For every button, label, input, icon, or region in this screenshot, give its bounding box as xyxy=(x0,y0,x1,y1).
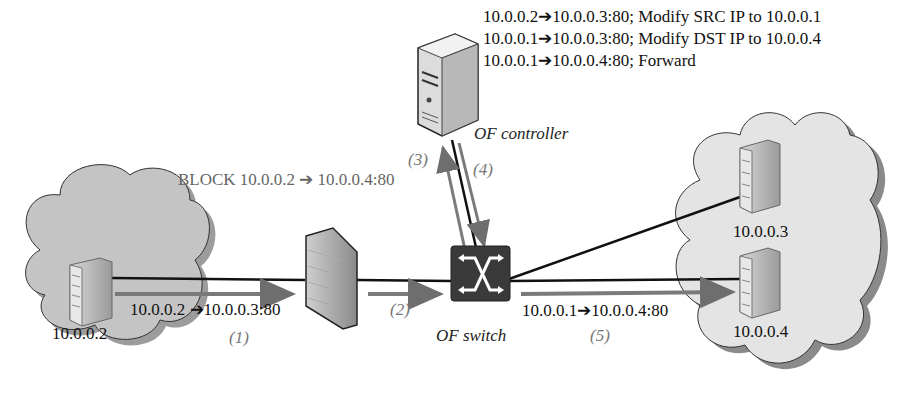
controller-icon xyxy=(418,34,478,136)
step-2: (2) xyxy=(390,300,410,320)
step-3: (3) xyxy=(408,150,428,170)
server-b-label: 10.0.0.4 xyxy=(733,322,788,342)
of-switch-icon xyxy=(451,246,510,301)
flow-arrow-5 xyxy=(521,292,732,294)
server-a-icon xyxy=(740,140,780,213)
client-host-icon xyxy=(70,258,112,326)
step-5: (5) xyxy=(590,326,610,346)
controller-rule-1: 10.0.0.2➔10.0.0.3:80; Modify SRC IP to 1… xyxy=(483,6,821,28)
flow-arrow-3 xyxy=(443,148,465,250)
of-switch-label: OF switch xyxy=(436,326,506,346)
server-b-icon xyxy=(740,248,780,318)
flow-label-1: 10.0.0.2 ➔10.0.0.3:80 xyxy=(130,300,280,320)
controller-rule-2: 10.0.0.1➔10.0.0.3:80; Modify DST IP to 1… xyxy=(483,28,821,50)
controller-label: OF controller xyxy=(474,124,568,144)
firewall-icon xyxy=(306,228,357,329)
diagram-canvas xyxy=(0,0,918,410)
flow-label-5: 10.0.0.1➔10.0.0.4:80 xyxy=(522,301,668,321)
step-4: (4) xyxy=(473,160,493,180)
step-1: (1) xyxy=(229,328,249,348)
controller-rule-3: 10.0.0.1➔10.0.0.4:80; Forward xyxy=(483,50,696,72)
server-a-label: 10.0.0.3 xyxy=(733,222,788,242)
firewall-rule: BLOCK 10.0.0.2 ➔ 10.0.0.4:80 xyxy=(178,170,395,190)
client-host-label: 10.0.0.2 xyxy=(52,324,107,344)
